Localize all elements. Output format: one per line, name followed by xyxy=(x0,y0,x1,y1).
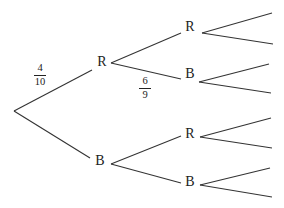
edge-BR-to-leaf6 xyxy=(200,137,272,148)
edge-BB-to-leaf8 xyxy=(200,185,272,197)
edge-root-to-B xyxy=(14,111,90,158)
fraction-numerator: 4 xyxy=(36,63,43,75)
edge-BB-to-leaf7 xyxy=(200,168,270,185)
edge-B-to-BB xyxy=(111,164,181,183)
edge-RB-to-leaf4 xyxy=(199,82,271,93)
probability-root-to-red: 4 10 xyxy=(34,63,46,87)
fraction-denominator: 10 xyxy=(35,76,46,88)
probability-tree-diagram: R B R B R B 4 10 6 9 xyxy=(0,0,284,208)
node-level2-red-red: R xyxy=(185,20,194,34)
node-level2-blue-blue: B xyxy=(185,175,194,189)
edge-B-to-BR xyxy=(111,136,181,164)
probability-red-to-blue: 6 9 xyxy=(139,76,151,100)
node-level2-blue-red: R xyxy=(185,127,194,141)
node-level1-blue: B xyxy=(95,154,104,168)
fraction-denominator: 9 xyxy=(142,89,147,101)
tree-edges xyxy=(0,0,284,208)
edge-RR-to-leaf2 xyxy=(202,33,273,44)
edge-RR-to-leaf1 xyxy=(202,13,272,33)
node-level1-red: R xyxy=(97,55,106,69)
edge-RB-to-leaf3 xyxy=(199,64,269,82)
node-level2-red-blue: B xyxy=(185,67,194,81)
edge-root-to-R xyxy=(14,70,92,111)
edge-BR-to-leaf5 xyxy=(200,118,271,137)
edge-R-to-RR xyxy=(111,33,181,63)
fraction-numerator: 6 xyxy=(141,76,148,88)
